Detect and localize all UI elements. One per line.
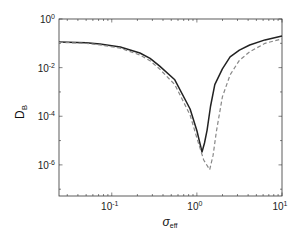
y-tick-label: 10-2: [38, 62, 55, 74]
y-axis-label-sub: B: [20, 105, 29, 110]
y-tick-label: 100: [40, 13, 55, 25]
x-tick-label: 100: [187, 200, 202, 212]
x-axis-label-sub: eff: [170, 222, 178, 229]
x-axis-label: σeff: [163, 215, 178, 229]
y-tick-label: 10-6: [38, 159, 55, 171]
x-tick-label: 10-1: [101, 200, 118, 212]
x-tick-label: 101: [272, 200, 287, 212]
y-tick-label: 10-4: [38, 110, 55, 122]
chart: 10-110010110010-210-410-6 DB σeff: [0, 0, 300, 238]
y-axis-label: DB: [13, 105, 29, 119]
